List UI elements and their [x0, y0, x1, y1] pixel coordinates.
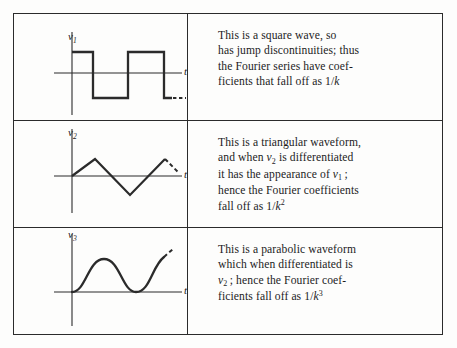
parabolic-wave-dashed-continuation	[164, 249, 173, 257]
parabolic-wave-plot-cell: v3 t	[14, 228, 188, 334]
figure-page: v1 t This is a square wave, so h	[0, 0, 457, 348]
triangular-wave-dashed-continuation	[165, 159, 178, 172]
triangular-wave-curve	[72, 159, 165, 195]
triangular-wave-caption-cell: This is a triangular waveform, and when …	[188, 121, 442, 227]
parabolic-wave-caption-cell: This is a parabolic waveform which when …	[188, 228, 442, 334]
table-row: v1 t This is a square wave, so h	[14, 14, 442, 121]
square-wave-plot-cell: v1 t	[14, 14, 188, 120]
triangular-wave-caption: This is a triangular waveform, and when …	[218, 135, 432, 215]
parabolic-wave-caption: This is a parabolic waveform which when …	[218, 242, 432, 306]
triangular-wave-plot-cell: v2 t	[14, 121, 188, 227]
square-wave-svg	[14, 14, 188, 120]
square-wave-caption: This is a square wave, so has jump disco…	[218, 28, 432, 90]
waveform-comparison-table: v1 t This is a square wave, so h	[13, 13, 443, 335]
square-wave-curve	[72, 52, 172, 98]
triangular-wave-svg	[14, 121, 188, 233]
parabolic-wave-curve	[72, 257, 164, 292]
table-row: v3 t This is a parabolic waveform which …	[14, 228, 442, 334]
parabolic-wave-svg	[14, 228, 188, 341]
square-wave-caption-cell: This is a square wave, so has jump disco…	[188, 14, 442, 120]
table-row: v2 t This is a triangular waveform, and …	[14, 121, 442, 228]
